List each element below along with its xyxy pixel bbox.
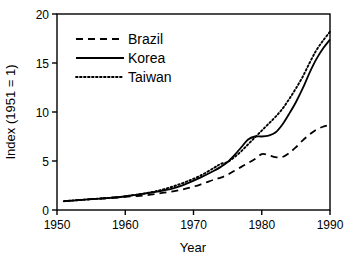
y-tick-label: 0 xyxy=(42,204,49,218)
series-line-taiwan xyxy=(64,32,330,202)
y-tick-label: 10 xyxy=(36,106,50,120)
x-tick-label: 1950 xyxy=(44,218,71,232)
y-axis-ticks xyxy=(52,14,57,210)
y-axis-title: Index (1951 = 1) xyxy=(3,64,18,159)
x-tick-label: 1960 xyxy=(112,218,139,232)
legend-label-taiwan: Taiwan xyxy=(128,69,172,85)
y-tick-label: 15 xyxy=(36,57,50,71)
legend-label-korea: Korea xyxy=(128,50,166,66)
data-series-group xyxy=(64,32,330,202)
x-axis-tick-labels: 19501960197019801990 xyxy=(44,218,344,232)
x-axis-title: Year xyxy=(180,240,207,255)
legend-label-brazil: Brazil xyxy=(128,31,163,47)
y-tick-label: 20 xyxy=(36,8,50,22)
y-axis-tick-labels: 05101520 xyxy=(36,8,50,218)
line-chart: 05101520 19501960197019801990 Year Index… xyxy=(0,0,354,259)
x-tick-label: 1980 xyxy=(248,218,275,232)
y-tick-label: 5 xyxy=(42,155,49,169)
chart-legend: Brazil Korea Taiwan xyxy=(76,31,172,85)
series-line-brazil xyxy=(64,125,330,201)
x-tick-label: 1970 xyxy=(180,218,207,232)
chart-figure: 05101520 19501960197019801990 Year Index… xyxy=(0,0,354,259)
x-axis-ticks xyxy=(57,210,330,215)
x-tick-label: 1990 xyxy=(317,218,344,232)
